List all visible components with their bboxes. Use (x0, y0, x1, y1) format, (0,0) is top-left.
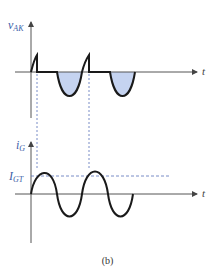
vak-axis-label: vAK (8, 19, 24, 33)
figure-caption: (b) (0, 255, 215, 266)
ig-axis-label: iG (16, 139, 25, 153)
igt-threshold-label: IGT (9, 170, 23, 184)
scr-waveform-figure: vAK t iG IGT t (b) (0, 0, 215, 272)
waveform-diagram (0, 0, 215, 272)
top-t-axis-label: t (202, 66, 205, 77)
bottom-plot (15, 142, 197, 243)
bottom-t-axis-label: t (202, 188, 205, 199)
top-plot (15, 22, 197, 118)
